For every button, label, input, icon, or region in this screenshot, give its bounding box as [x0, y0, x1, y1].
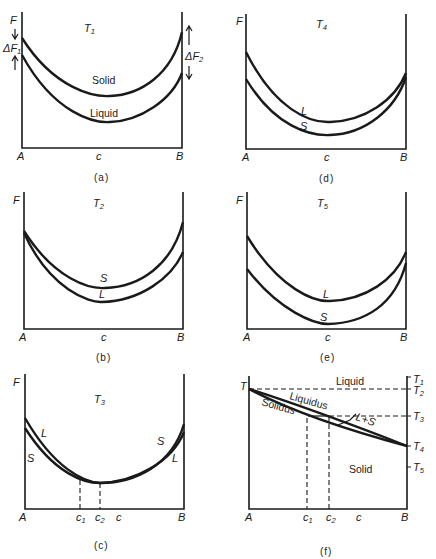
panel-f-two-phase-label: L+S: [354, 410, 377, 428]
panel-f-x-right-label: B: [401, 511, 408, 523]
panel-f-tick-t3: T3: [413, 410, 425, 424]
panel-b-y-axis-label: F: [13, 194, 21, 206]
panel-a-delta-f1-label: ΔF1: [2, 42, 21, 56]
panel-f-tick-t5: T5: [413, 461, 425, 475]
panel-e-y-axis-label: F: [236, 194, 244, 206]
panel-c-x-left-label: A: [18, 511, 26, 523]
panel-a-solid-curve: [22, 32, 182, 96]
panel-a-temperature-label: T1: [84, 22, 95, 36]
panel-a-delta-f2-label: ΔF2: [184, 50, 204, 64]
panel-c-left-solid-label: S: [27, 452, 35, 464]
panel-a-delta-f1-arrow-down-icon: [12, 29, 18, 39]
panel-a-solid-label: Solid: [92, 74, 116, 86]
panel-d-liquid-curve: [246, 52, 406, 122]
panel-a-y-axis-label: F: [10, 14, 18, 26]
panel-e-temperature-label: T5: [317, 197, 329, 211]
panel-f-x-c1-label: c1: [303, 511, 313, 525]
panel-a-x-mid-label: c: [96, 150, 102, 162]
panel-d-temperature-label: T4: [316, 18, 327, 32]
panel-c-y-axis-label: F: [13, 376, 21, 388]
panel-f: T Liquid Liquidus Solidus L+S Solid T1 T…: [240, 373, 425, 557]
panel-c-temperature-label: T3: [94, 393, 106, 407]
panel-e-liquid-label: L: [323, 288, 329, 300]
panel-f-x-c2-label: c2: [326, 511, 337, 525]
panel-f-y-axis-label: T: [240, 380, 248, 392]
panel-a-delta-f2-arrow-up-icon: [186, 26, 192, 45]
panel-b-x-left-label: A: [18, 331, 26, 343]
panel-b-solid-label: S: [100, 272, 108, 284]
panel-f-liquid-region-label: Liquid: [336, 375, 364, 387]
panel-d: F T4 L S A c B (d): [236, 14, 407, 184]
panel-f-caption: (f): [320, 546, 332, 557]
panel-e-x-mid-label: c: [325, 331, 331, 343]
panel-e: F T5 L S A c B (e): [236, 192, 407, 363]
panel-a-delta-f2-arrow-down-icon: [186, 66, 192, 79]
panel-d-solid-label: S: [300, 120, 308, 132]
panel-c-caption: (c): [94, 540, 109, 551]
panel-f-x-left-label: A: [244, 511, 252, 523]
panel-b-x-mid-label: c: [101, 331, 107, 343]
panel-a-x-left-label: A: [16, 150, 24, 162]
panel-d-x-left-label: A: [241, 151, 249, 163]
panel-a: F ΔF1 ΔF2 T1 Solid Liquid A c B (a): [2, 12, 204, 183]
panel-f-tick-t4: T4: [413, 440, 424, 454]
panel-e-solid-label: S: [320, 311, 328, 323]
panel-c-right-liquid-label: L: [172, 452, 178, 464]
panel-a-caption: (a): [94, 172, 109, 183]
panel-d-x-mid-label: c: [324, 151, 330, 163]
panel-e-x-left-label: A: [242, 331, 250, 343]
panel-f-x-mid-label: c: [356, 511, 362, 523]
panel-a-x-right-label: B: [176, 150, 183, 162]
panel-d-liquid-label: L: [301, 105, 307, 117]
panel-b-temperature-label: T2: [93, 197, 105, 211]
panel-e-x-right-label: B: [400, 331, 407, 343]
panel-c-x-c2-label: c2: [95, 511, 106, 525]
panel-d-solid-curve: [246, 77, 406, 135]
panel-e-caption: (e): [320, 352, 335, 363]
panel-b-x-right-label: B: [177, 331, 184, 343]
panel-d-y-axis-label: F: [236, 15, 244, 27]
panel-c-liquid-curve: [25, 418, 184, 483]
panel-a-delta-f1-arrow-up-icon: [12, 56, 18, 70]
panel-c-x-mid-label: c: [116, 511, 122, 523]
panel-b: F T2 S L A c B (b): [13, 192, 184, 363]
phase-diagram-figure: F ΔF1 ΔF2 T1 Solid Liquid A c B (a) F T4…: [0, 0, 436, 559]
panel-c-right-solid-label: S: [157, 435, 165, 447]
panel-f-solid-region-label: Solid: [349, 463, 373, 475]
panel-c-x-right-label: B: [178, 511, 185, 523]
panel-e-axes: [247, 192, 406, 329]
panel-c-x-c1-label: c1: [76, 511, 86, 525]
panel-d-caption: (d): [319, 173, 334, 184]
panel-a-liquid-label: Liquid: [90, 107, 118, 119]
panel-d-x-right-label: B: [400, 151, 407, 163]
panel-b-liquid-label: L: [99, 288, 105, 300]
panel-b-caption: (b): [96, 352, 111, 363]
panel-c-left-liquid-label: L: [41, 427, 47, 439]
panel-c: F T3 L S S L A c1 c2 c B (c): [13, 374, 185, 551]
panel-d-axes: [246, 14, 406, 149]
